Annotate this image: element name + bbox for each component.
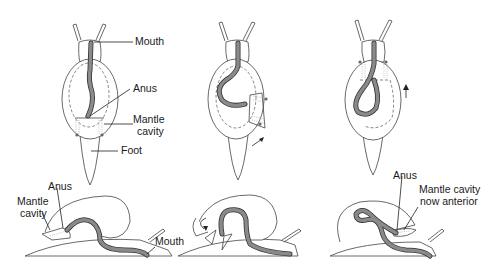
label-mouth-top: Mouth bbox=[135, 36, 164, 47]
dorsal-view-3 bbox=[345, 20, 409, 175]
label-anus-bottom-right: Anus bbox=[393, 170, 417, 181]
lateral-view-2 bbox=[178, 195, 301, 256]
torsion-diagram: Mouth Anus Mantle cavity Foot Anus Mantl… bbox=[0, 0, 491, 271]
label-anus-bottom-left: Anus bbox=[48, 181, 72, 192]
label-mouth-bottom: Mouth bbox=[155, 236, 184, 247]
label-mantle-cavity-bottom-left-1: Mantle bbox=[17, 196, 49, 207]
diagram-artwork bbox=[0, 0, 491, 271]
label-mantle-cavity-anterior-1: Mantle cavity bbox=[419, 184, 480, 195]
dorsal-view-1 bbox=[62, 24, 133, 185]
dorsal-view-2 bbox=[208, 22, 268, 180]
label-anus-top: Anus bbox=[133, 83, 157, 94]
label-mantle-cavity-top-2: cavity bbox=[137, 126, 164, 137]
label-mantle-cavity-bottom-left-2: cavity bbox=[20, 208, 47, 219]
label-mantle-cavity-anterior-2: now anterior bbox=[420, 196, 478, 207]
label-mantle-cavity-top-1: Mantle bbox=[133, 114, 165, 125]
label-foot: Foot bbox=[121, 145, 142, 156]
